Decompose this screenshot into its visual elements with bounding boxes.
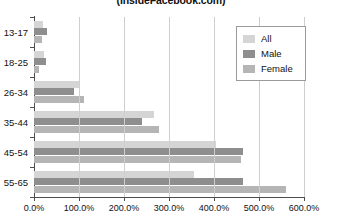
bar-female-35-44 xyxy=(34,126,159,133)
y-axis-tick xyxy=(30,167,34,168)
x-axis-tick-label: 500.0% xyxy=(244,203,275,213)
legend-label-male: Male xyxy=(261,49,282,59)
x-axis-tick xyxy=(124,197,125,201)
x-axis-tick-label: 0.0% xyxy=(24,203,45,213)
legend-swatch-male xyxy=(243,50,255,58)
legend-swatch-all xyxy=(243,35,255,43)
bar-male-13-17 xyxy=(34,28,47,35)
bar-all-35-44 xyxy=(34,111,154,118)
bar-male-18-25 xyxy=(34,58,46,65)
y-axis-category-label: 26-34 xyxy=(0,87,28,98)
y-axis-category-label: 55-65 xyxy=(0,177,28,188)
bar-all-18-25 xyxy=(34,51,44,58)
x-axis-tick-label: 300.0% xyxy=(154,203,185,213)
bar-male-26-34 xyxy=(34,88,74,95)
legend-label-female: Female xyxy=(261,64,293,74)
chart-container: (InsideFacebook.com) 0.0%100.0%200.0%300… xyxy=(0,0,342,222)
bar-all-13-17 xyxy=(34,21,43,28)
x-axis-tick xyxy=(79,197,80,201)
x-axis-tick xyxy=(214,197,215,201)
x-axis-tick-label: 400.0% xyxy=(199,203,230,213)
y-axis-category-label: 13-17 xyxy=(0,27,28,38)
y-axis-tick xyxy=(30,17,34,18)
y-axis-tick xyxy=(30,47,34,48)
x-axis-tick-label: 100.0% xyxy=(64,203,95,213)
legend-item-all: All xyxy=(243,31,300,46)
legend-label-all: All xyxy=(261,34,272,44)
legend-swatch-female xyxy=(243,65,255,73)
gridline xyxy=(124,17,125,197)
bar-all-26-34 xyxy=(34,81,79,88)
y-axis-tick xyxy=(30,197,34,198)
x-axis-tick-label: 200.0% xyxy=(109,203,140,213)
bar-male-45-54 xyxy=(34,148,243,155)
y-axis-tick xyxy=(30,107,34,108)
bar-female-13-17 xyxy=(34,36,42,43)
chart-title: (InsideFacebook.com) xyxy=(0,0,342,6)
bar-female-55-65 xyxy=(34,186,286,193)
x-axis-tick xyxy=(169,197,170,201)
bar-male-35-44 xyxy=(34,118,142,125)
y-axis-category-label: 35-44 xyxy=(0,117,28,128)
bar-female-26-34 xyxy=(34,96,84,103)
bar-all-55-65 xyxy=(34,171,194,178)
bar-female-18-25 xyxy=(34,66,39,73)
legend-item-male: Male xyxy=(243,46,300,61)
y-axis-category-label: 18-25 xyxy=(0,57,28,68)
x-axis-tick-label: 600.0% xyxy=(289,203,320,213)
y-axis-category-label: 45-54 xyxy=(0,147,28,158)
x-axis-tick xyxy=(34,197,35,201)
chart-legend: All Male Female xyxy=(236,26,306,81)
legend-item-female: Female xyxy=(243,61,300,76)
gridline xyxy=(169,17,170,197)
y-axis-tick xyxy=(30,77,34,78)
gridline xyxy=(214,17,215,197)
gridline xyxy=(79,17,80,197)
x-axis-tick xyxy=(304,197,305,201)
y-axis-tick xyxy=(30,137,34,138)
bar-male-55-65 xyxy=(34,178,243,185)
x-axis-tick xyxy=(259,197,260,201)
bar-female-45-54 xyxy=(34,156,241,163)
